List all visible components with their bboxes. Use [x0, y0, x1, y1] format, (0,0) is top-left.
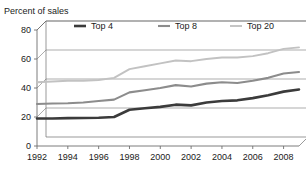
x-tick-label: 2004: [212, 152, 232, 162]
x-tick-label: 2002: [181, 152, 201, 162]
x-tick-label: 1998: [119, 152, 139, 162]
legend-label-top-4: Top 4: [91, 21, 113, 31]
x-axis-tick-labels: 199219941996199820002002200420062008: [27, 152, 294, 162]
y-axis-tick-labels: 020406080: [21, 25, 31, 151]
x-tick-label: 2008: [274, 152, 294, 162]
legend-label-top-8: Top 8: [175, 21, 197, 31]
y-tick-label: 60: [21, 54, 31, 64]
line-chart: 020406080 199219941996199820002002200420…: [0, 0, 306, 173]
chart-legend: Top 4Top 8Top 20: [74, 21, 274, 31]
x-tick-label: 2000: [150, 152, 170, 162]
x-tick-label: 1992: [27, 152, 47, 162]
chart-title: Percent of sales: [4, 6, 69, 16]
series-line-top-8: [37, 72, 299, 104]
axes: [34, 21, 306, 149]
y-tick-label: 80: [21, 25, 31, 35]
y-tick-label: 20: [21, 112, 31, 122]
chart-container: 020406080 199219941996199820002002200420…: [0, 0, 306, 173]
x-tick-label: 1996: [89, 152, 109, 162]
y-tick-label: 0: [26, 141, 31, 151]
x-tick-label: 2006: [243, 152, 263, 162]
legend-label-top-20: Top 20: [247, 21, 274, 31]
y-tick-label: 40: [21, 83, 31, 93]
series-line-top-4: [37, 89, 299, 118]
x-tick-label: 1994: [58, 152, 78, 162]
series-line-top-20: [37, 47, 299, 82]
